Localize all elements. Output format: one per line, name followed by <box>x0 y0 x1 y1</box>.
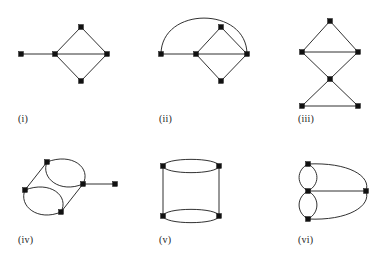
panel-label-i: (i) <box>18 113 28 124</box>
vertex-v-bottom-right <box>217 214 222 219</box>
vertex-i-top <box>79 25 84 30</box>
vertex-vi-center <box>306 189 311 194</box>
vertex-iii-top <box>328 19 333 24</box>
edge-ii-bottom-right <box>221 54 247 81</box>
edge-vi-upper-lens-right <box>308 164 317 191</box>
vertex-iv-back-top <box>45 160 50 165</box>
panel-label-iii: (iii) <box>298 113 314 124</box>
edge-iv-top-ellipse-outer <box>47 159 85 184</box>
vertex-ii-top <box>219 25 224 30</box>
edge-iv-top-ellipse-inner <box>46 162 83 187</box>
vertex-iii-center <box>328 77 333 82</box>
vertex-ii-center <box>194 52 199 57</box>
edge-v-bottom-arc-lower <box>163 216 219 223</box>
edge-ii-outer-arc <box>161 18 247 54</box>
edge-iv-back-side <box>25 162 47 190</box>
edge-ii-center-bottom <box>196 54 221 81</box>
vertex-vi-bottom <box>306 217 311 222</box>
graph-panel-iv <box>23 159 118 215</box>
edge-v-bottom-arc-upper <box>163 209 219 216</box>
vertex-iii-upper-left <box>300 50 305 55</box>
vertex-i-left <box>19 52 24 57</box>
edge-i-top-right <box>81 27 107 54</box>
vertex-iv-front-bottom <box>59 210 64 215</box>
edge-ii-top-right <box>221 27 247 54</box>
edge-iv-front-side <box>61 184 83 212</box>
vertex-iii-lower-left <box>300 104 305 109</box>
edge-i-center-bottom <box>55 54 81 81</box>
vertex-i-bottom <box>79 79 84 84</box>
edge-iv-bottom-ellipse-inner <box>24 190 61 215</box>
graph-panel-v <box>161 159 222 223</box>
graph-panel-iii <box>300 19 361 109</box>
graph-figure: (i) (ii) (iii) (iv) (v) (vi) <box>0 0 387 259</box>
edge-vi-lower-lens-right <box>308 191 317 219</box>
vertex-vi-right <box>364 189 369 194</box>
vertex-ii-right <box>245 52 250 57</box>
vertex-iii-lower-right <box>356 104 361 109</box>
edge-iii-top-upperright <box>330 21 358 52</box>
graph-panel-ii <box>159 18 250 83</box>
vertex-ii-bottom <box>219 79 224 84</box>
edge-i-center-top <box>55 27 81 54</box>
vertex-i-center <box>53 52 58 57</box>
edge-iii-top-upperleft <box>302 21 330 52</box>
vertex-iv-pendant <box>113 182 118 187</box>
edge-vi-lower-lens-left <box>299 191 308 219</box>
panel-label-iv: (iv) <box>18 234 33 245</box>
vertex-vi-top <box>306 162 311 167</box>
edge-v-top-arc-lower <box>163 166 219 173</box>
vertex-iii-upper-right <box>356 50 361 55</box>
vertex-v-top-right <box>217 164 222 169</box>
edge-vi-upper-lens-left <box>299 164 308 191</box>
panel-label-v: (v) <box>159 234 171 245</box>
graph-panel-vi <box>299 162 368 222</box>
panel-label-vi: (vi) <box>298 234 313 245</box>
vertex-iv-front-top <box>81 182 86 187</box>
vertex-v-bottom-left <box>161 214 166 219</box>
edge-ii-center-top <box>196 27 221 54</box>
vertex-v-top-left <box>161 164 166 169</box>
edge-i-bottom-right <box>81 54 107 81</box>
graph-drawing-canvas <box>0 0 387 259</box>
vertex-i-right <box>105 52 110 57</box>
graph-panel-i <box>19 25 110 84</box>
panel-label-ii: (ii) <box>159 113 172 124</box>
vertex-iv-back-bottom <box>23 188 28 193</box>
edge-v-top-arc-upper <box>163 159 219 166</box>
vertex-ii-left <box>159 52 164 57</box>
edge-iv-bottom-ellipse-outer <box>25 187 63 212</box>
